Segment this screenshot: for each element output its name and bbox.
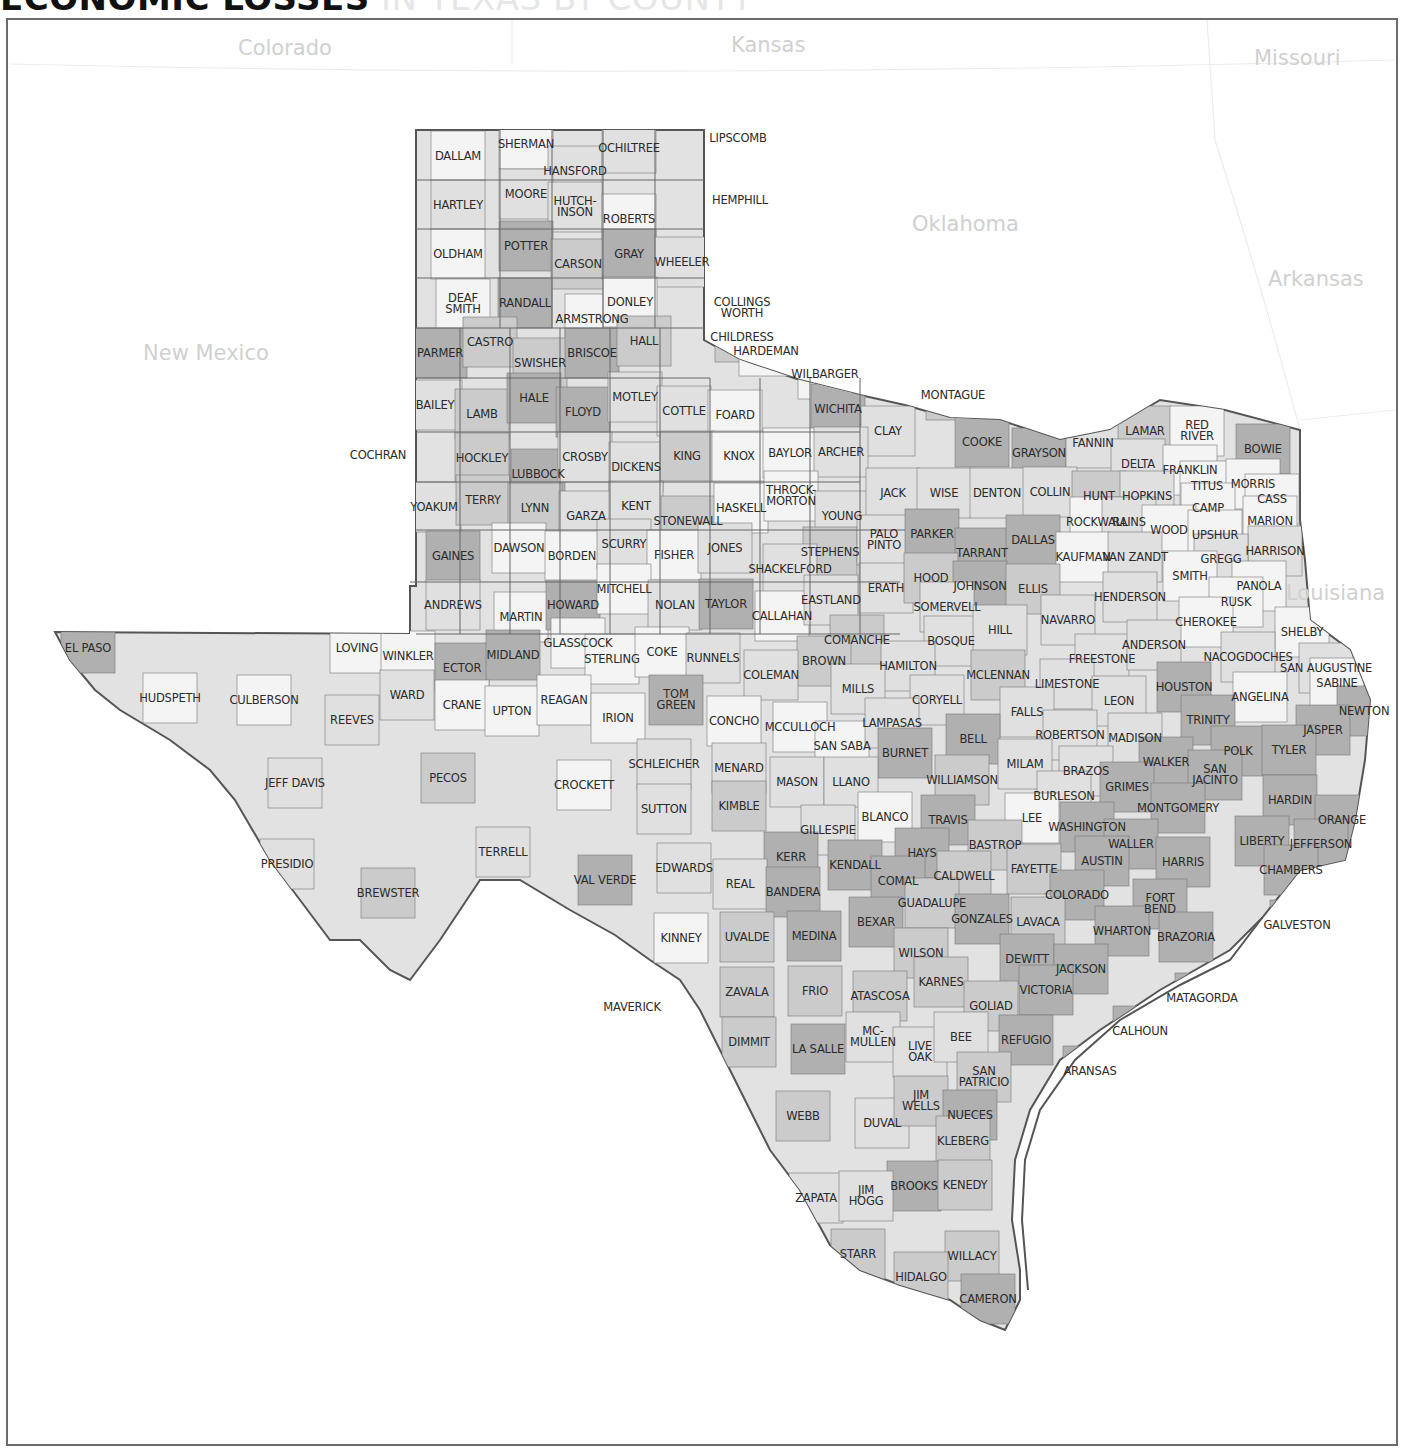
county-label: TERRY (465, 495, 501, 506)
county-label: HARTLEY (433, 200, 483, 211)
county-label: BROOKS (890, 1181, 938, 1192)
county-label: DELTA (1121, 459, 1155, 470)
county-label: KINNEY (660, 933, 701, 944)
county-label: CULBERSON (229, 695, 298, 706)
county-label: MOORE (505, 189, 547, 200)
county-label: FAYETTE (1011, 864, 1058, 875)
county-label: KERR (776, 852, 806, 863)
county-label: MATAGORDA (1166, 993, 1237, 1004)
county-label: NUECES (947, 1110, 993, 1121)
county-label: MC- MULLEN (850, 1026, 896, 1048)
county-label: RAINS (1112, 517, 1146, 528)
county-label: KENEDY (943, 1180, 988, 1191)
county-label: WILLACY (948, 1251, 997, 1262)
county-label: REAGAN (540, 695, 587, 706)
county-label: STEPHENS (801, 547, 860, 558)
county-label: SAN JACINTO (1192, 764, 1238, 786)
county-label: PALO PINTO (867, 529, 901, 551)
county-label: GAINES (432, 551, 474, 562)
county-label: BOWIE (1244, 444, 1282, 455)
county-label: BURNET (882, 748, 928, 759)
county-label: MONTAGUE (921, 390, 985, 401)
county-label: BRAZOS (1063, 766, 1109, 777)
county-label: STARR (840, 1249, 876, 1260)
county-label: UVALDE (725, 932, 770, 943)
county-label: BOSQUE (927, 636, 975, 647)
county-label: KENT (621, 501, 651, 512)
county-label: NOLAN (655, 600, 695, 611)
county-label: FALLS (1011, 707, 1044, 718)
state-label-kansas: Kansas (731, 33, 805, 57)
county-label: TYLER (1272, 745, 1307, 756)
county-label: HANSFORD (543, 166, 606, 177)
county-label: MIDLAND (487, 650, 540, 661)
county-label: UPTON (492, 706, 531, 717)
county-label: MOTLEY (612, 392, 658, 403)
county-label: DIMMIT (728, 1037, 769, 1048)
county-label: IRION (602, 713, 633, 724)
county-label: EDWARDS (655, 863, 712, 874)
county-label: JEFFERSON (1290, 839, 1352, 850)
county-label: PARKER (910, 529, 954, 540)
county-label: TITUS (1191, 481, 1223, 492)
county-label: ZAPATA (795, 1193, 837, 1204)
county-label: GRAY (614, 249, 644, 260)
county-label: WOOD (1150, 525, 1188, 536)
county-label: COMAL (878, 876, 918, 887)
county-label: LIVE OAK (908, 1041, 932, 1063)
county-label: SAN AUGUSTINE (1280, 663, 1372, 674)
county-label: ROBERTS (603, 214, 655, 225)
county-label: ARANSAS (1063, 1066, 1116, 1077)
county-label: MITCHELL (597, 584, 652, 595)
county-label: HIDALGO (895, 1272, 947, 1283)
county-label: WILSON (899, 948, 944, 959)
county-label: SHERMAN (498, 139, 554, 150)
state-label-colorado: Colorado (238, 36, 332, 60)
county-label: BRAZORIA (1157, 932, 1215, 943)
county-label: TRINITY (1186, 715, 1229, 726)
county-label: CLAY (874, 426, 902, 437)
county-label: ARCHER (818, 447, 864, 458)
county-label: MEDINA (792, 931, 837, 942)
county-label: ELLIS (1018, 584, 1048, 595)
county-label: WILLIAMSON (926, 775, 998, 786)
county-label: JIM WELLS (902, 1090, 940, 1112)
county-label: LUBBOCK (511, 469, 564, 480)
county-label: MORRIS (1231, 479, 1275, 490)
county-label: BASTROP (969, 840, 1022, 851)
county-label: HALL (630, 336, 659, 347)
county-label: LIMESTONE (1035, 679, 1099, 690)
county-label: ECTOR (443, 663, 481, 674)
county-label: HEMPHILL (712, 195, 768, 206)
county-label: BLANCO (862, 812, 909, 823)
county-label: MENARD (714, 763, 763, 774)
county-label: JACKSON (1056, 964, 1106, 975)
county-label: SOMERVELL (913, 602, 980, 613)
county-label: HOPKINS (1122, 491, 1172, 502)
county-label: COTTLE (662, 406, 705, 417)
county-label: VAN ZANDT (1102, 552, 1168, 563)
county-label: GLASSCOCK (544, 638, 613, 649)
county-label: TOM GREEN (656, 689, 695, 711)
county-label: COLORADO (1045, 890, 1109, 901)
county-label: GONZALES (951, 914, 1013, 925)
county-label: HOUSTON (1156, 682, 1213, 693)
county-label: HARDIN (1268, 795, 1312, 806)
county-label: MONTGOMERY (1137, 803, 1219, 814)
county-label: CHAMBERS (1259, 865, 1322, 876)
county-label: ORANGE (1318, 815, 1366, 826)
county-label: KNOX (723, 451, 755, 462)
county-label: KENDALL (829, 860, 880, 871)
county-label: REFUGIO (1001, 1035, 1051, 1046)
county-label: BELL (959, 734, 986, 745)
county-label: POLK (1223, 746, 1252, 757)
county-label: PARMER (417, 348, 463, 359)
county-label: BAYLOR (768, 448, 812, 459)
county-label: CROCKETT (554, 780, 614, 791)
county-label: FLOYD (565, 407, 601, 418)
county-label: BORDEN (548, 551, 596, 562)
county-label: JASPER (1303, 725, 1342, 736)
county-label: LEE (1022, 813, 1042, 824)
county-label: MILAM (1007, 759, 1044, 770)
county-label: CAMP (1192, 503, 1224, 514)
